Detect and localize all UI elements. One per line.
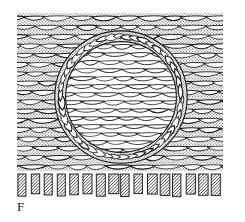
lenticular-cell (0, 90, 14, 95)
lenticular-cell (0, 146, 12, 151)
lenticular-cell (221, 118, 244, 122)
lenticular-cell (230, 146, 245, 151)
lenticular-cell (231, 25, 244, 30)
lenticular-cell (227, 16, 244, 20)
lenticular-cell (0, 63, 11, 67)
lenticular-cell (232, 62, 244, 67)
lenticular-cell (0, 81, 13, 86)
matrix-row (0, 165, 244, 170)
lenticular-cell (228, 81, 244, 86)
lenticular-cell (232, 137, 244, 142)
lenticular-cell (232, 109, 244, 114)
histology-line-drawing (0, 0, 244, 222)
picket-outline (109, 174, 119, 194)
lenticular-cell (235, 44, 245, 49)
lenticular-cell (0, 165, 19, 170)
lenticular-cell (220, 100, 244, 104)
figure-panel: F (0, 0, 244, 222)
lenticular-cell (0, 53, 18, 57)
lenticular-cell (0, 109, 15, 114)
lenticular-cell (233, 35, 244, 40)
lenticular-cell (232, 53, 244, 57)
basal-hatched-layer (0, 173, 244, 198)
panel-label: F (17, 200, 24, 213)
lenticular-cell (0, 118, 7, 122)
lenticular-cell (221, 165, 244, 170)
lenticular-cell (0, 25, 15, 30)
lenticular-cell (0, 35, 6, 39)
